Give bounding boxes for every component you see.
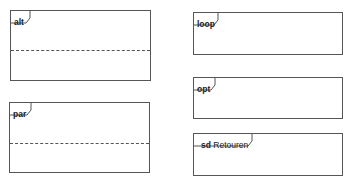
opt-operator-label: opt: [194, 84, 210, 94]
loop-fragment-tag: loop: [194, 13, 218, 25]
par-fragment[interactable]: par: [9, 102, 150, 173]
par-operand-separator: [10, 143, 149, 144]
opt-fragment-tag: opt: [194, 78, 215, 90]
sd-operator-label: sd: [201, 140, 211, 150]
sd-retouren-frame[interactable]: sd Retouren: [193, 133, 343, 176]
opt-fragment[interactable]: opt: [193, 77, 343, 119]
par-operator-label: par: [10, 109, 26, 119]
sd-frame-label: sd Retouren: [194, 140, 248, 150]
alt-fragment[interactable]: alt: [10, 10, 151, 81]
alt-operator-label: alt: [11, 17, 24, 27]
loop-fragment[interactable]: loop: [193, 12, 343, 55]
sd-frame-tag: sd Retouren: [194, 134, 252, 146]
loop-operator-label: loop: [194, 19, 215, 29]
sd-diagram-name: Retouren: [211, 140, 248, 150]
alt-operand-separator: [11, 50, 150, 51]
par-fragment-tag: par: [10, 103, 31, 115]
alt-fragment-tag: alt: [11, 11, 30, 23]
